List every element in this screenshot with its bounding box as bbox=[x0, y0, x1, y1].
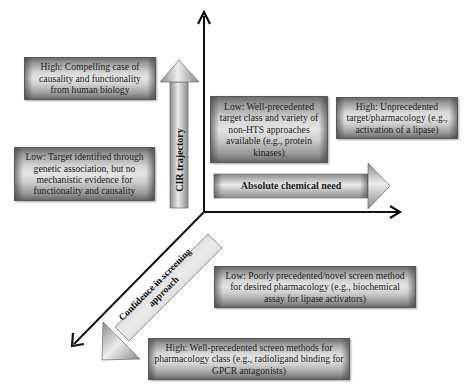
screen-low-text: Low: Poorly precedented/novel screen met… bbox=[219, 270, 411, 304]
cir-trajectory-label: CIR trajectory bbox=[174, 128, 185, 192]
screen-low-box: Low: Poorly precedented/novel screen met… bbox=[214, 266, 416, 308]
cir-low-box: Low: Target identified through genetic a… bbox=[14, 147, 155, 201]
screen-high-box: High: Well-precedented screen methods fo… bbox=[148, 338, 350, 380]
chem-high-box: High: Unprecedented target/pharmacology … bbox=[336, 97, 458, 139]
vertical-axis bbox=[198, 12, 210, 212]
cir-high-text: High: Compelling case of causality and f… bbox=[29, 61, 151, 95]
chem-low-text: Low: Well-precedented target class and v… bbox=[215, 101, 323, 158]
cir-low-text: Low: Target identified through genetic a… bbox=[19, 151, 150, 197]
chem-high-text: High: Unprecedented target/pharmacology … bbox=[341, 101, 453, 135]
chemical-need-label: Absolute chemical need bbox=[241, 180, 342, 191]
horizontal-axis bbox=[203, 206, 400, 218]
cir-high-box: High: Compelling case of causality and f… bbox=[24, 57, 156, 100]
screen-high-text: High: Well-precedented screen methods fo… bbox=[153, 342, 345, 376]
chemical-need-label-box: Absolute chemical need bbox=[214, 174, 368, 198]
chem-low-box: Low: Well-precedented target class and v… bbox=[210, 96, 328, 163]
